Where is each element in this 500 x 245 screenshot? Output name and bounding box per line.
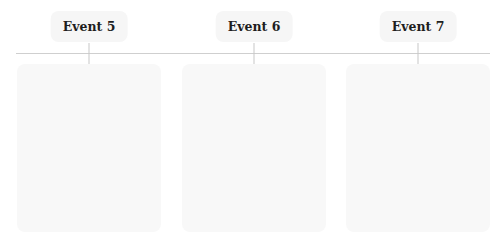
- event-connector: [254, 43, 255, 65]
- event-label[interactable]: Event 5: [51, 11, 128, 42]
- timeline-event-6: Event 6: [182, 0, 326, 245]
- event-connector: [89, 43, 90, 65]
- event-card[interactable]: [182, 64, 326, 232]
- event-label[interactable]: Event 7: [380, 11, 457, 42]
- timeline-event-7: Event 7: [346, 0, 490, 245]
- event-label[interactable]: Event 6: [216, 11, 293, 42]
- event-connector: [418, 43, 419, 65]
- timeline-event-5: Event 5: [17, 0, 161, 245]
- event-card[interactable]: [346, 64, 490, 232]
- timeline: Event 5 Event 6 Event 7: [0, 0, 500, 245]
- event-card[interactable]: [17, 64, 161, 232]
